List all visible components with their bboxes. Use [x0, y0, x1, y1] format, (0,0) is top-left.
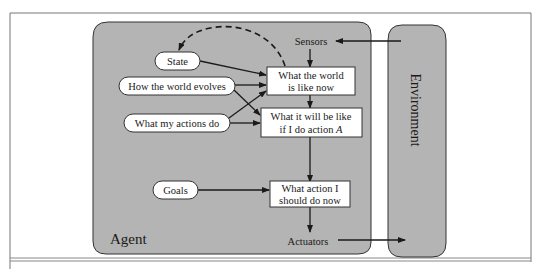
will-be-line2-var: A	[335, 124, 343, 135]
node-state: State	[155, 52, 200, 70]
agent-box: Agent	[93, 22, 371, 254]
will-be-line2: if I do action A	[280, 124, 344, 135]
state-label: State	[167, 56, 188, 67]
world-now-line2: is like now	[288, 82, 334, 93]
actions-do-label: What my actions do	[135, 118, 219, 129]
will-be-line2-prefix: if I do action	[280, 124, 337, 135]
environment-box: Environment	[388, 25, 446, 257]
node-world-evolves: How the world evolves	[119, 77, 235, 95]
action-line1: What action I	[281, 183, 339, 194]
agent-diagram: Agent Environment Sensors Actuators	[0, 0, 541, 269]
node-actions-do: What my actions do	[124, 114, 230, 132]
environment-label: Environment	[408, 73, 423, 146]
world-now-line1: What the world	[278, 70, 344, 81]
node-action: What action I should do now	[270, 181, 350, 207]
goals-label: Goals	[163, 185, 188, 196]
agent-label: Agent	[110, 231, 147, 247]
node-world-now: What the world is like now	[267, 67, 355, 95]
world-evolves-label: How the world evolves	[128, 81, 226, 92]
node-goals: Goals	[153, 181, 198, 199]
actuators-label: Actuators	[288, 236, 329, 247]
node-will-be: What it will be like if I do action A	[261, 108, 362, 137]
sensors-label: Sensors	[295, 36, 328, 47]
will-be-line1: What it will be like	[270, 111, 351, 122]
action-line2: should do now	[279, 195, 341, 206]
